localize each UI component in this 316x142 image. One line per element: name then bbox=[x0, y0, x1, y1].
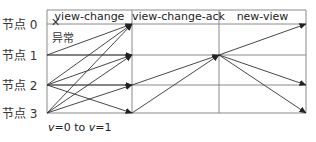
phase-header-view-change-ack: view-change-ack bbox=[132, 10, 219, 23]
message-arrow bbox=[47, 55, 132, 85]
message-arrow bbox=[132, 55, 219, 85]
view-transition-label: v=0 to v=1 bbox=[48, 121, 112, 134]
node-label-0: 节点 0 bbox=[2, 15, 37, 32]
fault-mark-icon: ✕ bbox=[51, 16, 60, 29]
node-label-3: 节点 3 bbox=[2, 104, 37, 121]
message-arrow bbox=[132, 55, 219, 113]
message-arrow bbox=[219, 55, 306, 113]
v-to-value: =1 bbox=[95, 121, 111, 134]
to-word: to bbox=[74, 121, 85, 134]
node-label-2: 节点 2 bbox=[2, 76, 37, 93]
fault-label: 异常 bbox=[52, 29, 74, 45]
node-label-1: 节点 1 bbox=[2, 46, 37, 63]
message-arrow bbox=[219, 24, 306, 55]
message-arrow bbox=[47, 55, 132, 113]
v-from-value: =0 bbox=[55, 121, 71, 134]
message-arrows bbox=[47, 24, 306, 113]
message-arrow bbox=[219, 55, 306, 85]
phase-header-new-view: new-view bbox=[219, 10, 306, 23]
